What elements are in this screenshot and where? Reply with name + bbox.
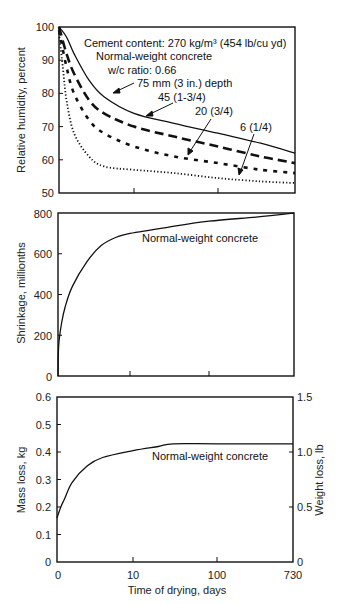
svg-text:45 (1-3/4): 45 (1-3/4) bbox=[158, 91, 206, 103]
y-axis-title: Relative humidity, percent bbox=[15, 47, 27, 173]
svg-text:730: 730 bbox=[284, 569, 302, 581]
svg-text:80: 80 bbox=[42, 87, 54, 99]
annotations: Cement content: 270 kg/m³ (454 lb/cu yd)… bbox=[84, 37, 286, 133]
annotation: Normal-weight concrete bbox=[152, 450, 268, 462]
panel-mass-loss: 0.6 0.5 0.4 0.3 0.2 0.1 0 1.5 1.0 0.5 0 … bbox=[15, 391, 325, 596]
svg-text:200: 200 bbox=[34, 330, 52, 342]
svg-text:70: 70 bbox=[42, 121, 54, 133]
svg-text:0: 0 bbox=[297, 556, 303, 568]
svg-text:6 (1/4): 6 (1/4) bbox=[240, 121, 272, 133]
svg-text:Cement content: 270 kg/m³ (45: Cement content: 270 kg/m³ (454 lb/cu yd) bbox=[84, 37, 286, 49]
svg-text:10: 10 bbox=[127, 569, 139, 581]
panel-relative-humidity: 100 90 80 70 60 50 Relative humidity, pe… bbox=[15, 21, 295, 199]
chart-figure: 100 90 80 70 60 50 Relative humidity, pe… bbox=[0, 0, 340, 604]
svg-text:100: 100 bbox=[36, 21, 54, 33]
svg-text:0: 0 bbox=[55, 569, 61, 581]
svg-text:0.6: 0.6 bbox=[36, 391, 51, 403]
x-axis-title: Time of drying, days bbox=[128, 584, 227, 596]
x-tick-labels: 0 10 100 730 bbox=[55, 569, 302, 581]
y-tick-labels: 800 600 400 200 0 bbox=[34, 208, 52, 383]
svg-text:800: 800 bbox=[34, 208, 52, 220]
svg-text:1.5: 1.5 bbox=[297, 391, 312, 403]
svg-text:0.3: 0.3 bbox=[36, 474, 51, 486]
svg-text:0.1: 0.1 bbox=[36, 529, 51, 541]
panel-shrinkage: 800 600 400 200 0 Shrinkage, millionths … bbox=[15, 208, 294, 383]
y-axis-title: Shrinkage, millionths bbox=[15, 242, 27, 344]
svg-text:0: 0 bbox=[46, 371, 52, 383]
svg-text:0: 0 bbox=[45, 556, 51, 568]
svg-text:Normal-weight concrete: Normal-weight concrete bbox=[96, 50, 212, 62]
svg-text:100: 100 bbox=[208, 569, 226, 581]
svg-text:w/c ratio: 0.66: w/c ratio: 0.66 bbox=[107, 64, 176, 76]
svg-text:0.4: 0.4 bbox=[36, 446, 51, 458]
y-axis-title: Mass loss, kg bbox=[15, 447, 27, 514]
svg-text:60: 60 bbox=[42, 154, 54, 166]
svg-text:600: 600 bbox=[34, 248, 52, 260]
svg-text:50: 50 bbox=[42, 187, 54, 199]
svg-text:75 mm (3 in.) depth: 75 mm (3 in.) depth bbox=[137, 77, 232, 89]
y-tick-labels: 0.6 0.5 0.4 0.3 0.2 0.1 0 bbox=[36, 391, 51, 568]
y-tick-labels: 100 90 80 70 60 50 bbox=[36, 21, 54, 199]
svg-text:0.5: 0.5 bbox=[297, 501, 312, 513]
svg-text:90: 90 bbox=[42, 54, 54, 66]
svg-text:0.5: 0.5 bbox=[36, 419, 51, 431]
y-right-axis-title: Weight loss, lb bbox=[313, 444, 325, 515]
y-right-tick-labels: 1.5 1.0 0.5 0 bbox=[297, 391, 312, 568]
annotation: Normal-weight concrete bbox=[142, 232, 258, 244]
svg-text:400: 400 bbox=[34, 289, 52, 301]
svg-text:20 (3/4): 20 (3/4) bbox=[195, 105, 233, 117]
svg-text:1.0: 1.0 bbox=[297, 446, 312, 458]
svg-text:0.2: 0.2 bbox=[36, 501, 51, 513]
plot-frame bbox=[57, 397, 293, 562]
ticks bbox=[57, 425, 293, 563]
